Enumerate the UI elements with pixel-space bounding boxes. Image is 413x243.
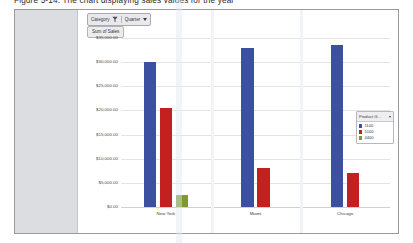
gridline (121, 38, 390, 39)
y-axis-tick-label: $0.00 (107, 205, 118, 209)
left-blank-pane (15, 10, 78, 233)
chevron-down-icon[interactable] (389, 116, 391, 118)
gridline (121, 62, 390, 63)
legend-title: Product G... (359, 113, 381, 120)
page-heading: Figure 5-14: The chart displaying sales … (14, 0, 404, 6)
bar-chicago-5100[interactable] (347, 173, 359, 207)
group-separator (211, 10, 214, 233)
legend-items: 110051004400 (357, 122, 393, 143)
legend-item[interactable]: 4400 (359, 135, 391, 141)
chart-area: Category Quarter Sum of Sales $0.00$5,00… (79, 10, 398, 233)
y-axis-tick-label: $10,000.00 (96, 157, 118, 161)
chart-legend[interactable]: Product G... 110051004400 (356, 111, 394, 144)
bar-new-york-4400[interactable] (176, 195, 188, 207)
y-axis-tick-label: $25,000.00 (96, 84, 118, 88)
legend-header[interactable]: Product G... (357, 112, 393, 122)
filter-quarter-label[interactable]: Quarter (125, 15, 141, 24)
legend-item-label: 4400 (364, 135, 373, 141)
y-axis-tick-label: $30,000.00 (96, 60, 118, 64)
filter-category-label[interactable]: Category (91, 15, 110, 24)
plot-region: $0.00$5,000.00$10,000.00$15,000.00$20,00… (121, 38, 390, 207)
bar-miami-1100[interactable] (241, 48, 253, 207)
legend-swatch (359, 124, 362, 127)
x-axis-category-label: Chicago (337, 212, 353, 216)
filter-toolbar[interactable]: Category Quarter (87, 13, 151, 26)
bar-new-york-5100[interactable] (160, 108, 172, 207)
y-axis-tick-label: $35,000.00 (96, 36, 118, 40)
toolbar-divider (121, 16, 122, 23)
funnel-icon[interactable] (112, 16, 118, 23)
x-axis-category-label: Miami (250, 212, 262, 216)
chevron-down-icon[interactable] (143, 18, 147, 21)
y-axis-tick-label: $20,000.00 (96, 108, 118, 112)
report-frame: Category Quarter Sum of Sales $0.00$5,00… (14, 9, 399, 234)
bar-new-york-1100[interactable] (144, 62, 156, 207)
y-axis-tick-label: $15,000.00 (96, 132, 118, 136)
y-axis-tick-label: $5,000.00 (98, 181, 118, 185)
bar-chicago-1100[interactable] (331, 45, 343, 207)
gridline (121, 207, 390, 208)
legend-swatch (359, 130, 362, 133)
bar-miami-5100[interactable] (257, 168, 269, 207)
legend-swatch (359, 136, 362, 139)
x-axis-category-label: New York (157, 212, 176, 216)
group-separator (300, 10, 303, 233)
gridline (121, 86, 390, 87)
